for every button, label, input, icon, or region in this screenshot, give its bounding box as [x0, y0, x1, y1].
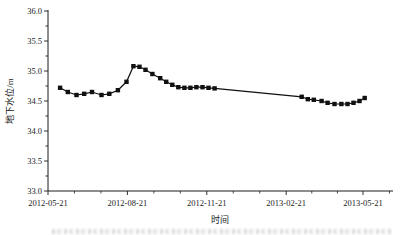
x-axis-title: 时间	[211, 214, 229, 225]
y-tick-label: 34.5	[27, 96, 42, 106]
data-point-marker	[345, 102, 349, 106]
data-point-marker	[124, 80, 128, 84]
y-tick-label: 35.0	[27, 66, 42, 76]
groundwater-level-line-chart: 33.033.534.034.535.035.536.02012-05-2120…	[0, 0, 401, 235]
data-point-marker	[194, 85, 198, 89]
series-line	[60, 66, 365, 104]
groundwater-level-chart-figure: 33.033.534.034.535.035.536.02012-05-2120…	[0, 0, 401, 235]
x-tick-label: 2013-05-21	[343, 198, 383, 208]
data-point-marker	[158, 76, 162, 80]
x-tick-label: 2013-02-21	[266, 198, 306, 208]
y-tick-label: 33.0	[27, 186, 42, 196]
data-point-marker	[90, 90, 94, 94]
data-point-marker	[339, 102, 343, 106]
y-tick-label: 35.5	[27, 36, 42, 46]
y-tick-label: 36.0	[27, 6, 42, 16]
data-point-marker	[58, 86, 62, 90]
data-point-marker	[351, 101, 355, 105]
data-point-marker	[206, 86, 210, 90]
data-point-marker	[319, 99, 323, 103]
data-point-marker	[188, 86, 192, 90]
data-point-marker	[66, 90, 70, 94]
data-point-marker	[176, 85, 180, 89]
data-point-marker	[82, 92, 86, 96]
data-point-marker	[164, 80, 168, 84]
data-point-marker	[300, 95, 304, 99]
data-point-marker	[150, 72, 154, 76]
data-point-marker	[116, 88, 120, 92]
data-point-marker	[170, 83, 174, 87]
y-tick-label: 34.0	[27, 126, 42, 136]
data-point-marker	[325, 101, 329, 105]
cropped-caption-text	[52, 229, 392, 234]
data-point-marker	[137, 65, 141, 69]
data-point-marker	[107, 92, 111, 96]
data-point-marker	[312, 98, 316, 102]
data-point-marker	[131, 64, 135, 68]
x-tick-label: 2012-11-21	[187, 198, 226, 208]
data-point-marker	[212, 86, 216, 90]
data-point-marker	[74, 93, 78, 97]
data-point-marker	[357, 99, 361, 103]
data-point-marker	[363, 96, 367, 100]
x-tick-label: 2012-05-21	[28, 198, 68, 208]
data-point-marker	[200, 85, 204, 89]
y-axis-title: 地下水位/m	[4, 78, 15, 124]
data-point-marker	[306, 97, 310, 101]
data-point-marker	[332, 102, 336, 106]
data-point-marker	[182, 86, 186, 90]
y-tick-label: 33.5	[27, 156, 42, 166]
data-point-marker	[143, 68, 147, 72]
data-point-marker	[99, 93, 103, 97]
x-tick-label: 2012-08-21	[108, 198, 148, 208]
